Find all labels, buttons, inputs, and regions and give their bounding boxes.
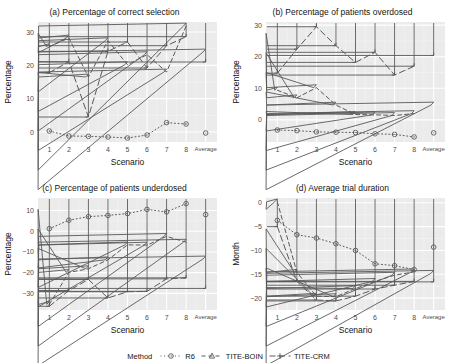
legend-label: TITE-BOIN — [226, 352, 263, 361]
legend-key-plus-icon — [269, 351, 291, 361]
panel-c: (c) Percentage of patients underdosed−30… — [0, 182, 229, 344]
panel-b: (b) Percentage of patients overdosed0102… — [228, 6, 457, 176]
panel-title: (d) Average trial duration — [228, 182, 457, 194]
legend-label: TITE-CRM — [294, 352, 330, 361]
x-axis-tick-label: Average — [420, 146, 448, 153]
legend-item-tite-crm: TITE-CRM — [269, 351, 330, 361]
y-axis-label: Percentage — [2, 22, 14, 142]
panel-d: (d) Average trial duration−20−15−10−5012… — [228, 182, 457, 344]
y-axis-label: Percentage — [230, 22, 242, 142]
x-axis-tick-label: Average — [192, 146, 220, 153]
plot-area — [266, 198, 445, 310]
legend-key-circle-icon — [160, 351, 182, 361]
legend-item-r6: R6 — [160, 351, 195, 361]
y-axis-label: Month — [230, 198, 242, 310]
x-axis-label: Scenario — [38, 157, 217, 167]
figure-root: (a) Percentage of correct selection01020… — [0, 0, 457, 363]
panel-title: (b) Percentage of patients overdosed — [228, 6, 457, 18]
x-axis-label: Scenario — [266, 325, 445, 335]
x-axis-label: Scenario — [266, 157, 445, 167]
plot-area — [38, 22, 217, 142]
panel-title: (a) Percentage of correct selection — [0, 6, 229, 18]
legend-key-triangle-icon — [201, 351, 223, 361]
x-axis-tick-label: Average — [420, 314, 448, 321]
panel-title: (c) Percentage of patients underdosed — [0, 182, 229, 194]
legend-item-tite-boin: TITE-BOIN — [201, 351, 263, 361]
panel-a: (a) Percentage of correct selection01020… — [0, 6, 229, 176]
plot-area — [38, 198, 217, 310]
plot-area — [266, 22, 445, 142]
x-axis-tick-label: Average — [192, 314, 220, 321]
legend-title: Method — [127, 352, 152, 361]
legend: Method R6TITE-BOINTITE-CRM — [0, 351, 457, 361]
legend-label: R6 — [185, 352, 195, 361]
x-axis-label: Scenario — [38, 325, 217, 335]
y-axis-label: Percentage — [2, 198, 14, 310]
